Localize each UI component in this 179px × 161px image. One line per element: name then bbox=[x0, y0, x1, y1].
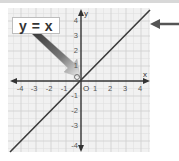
svg-text:-2: -2 bbox=[71, 106, 78, 115]
equation-label: y = x bbox=[12, 17, 60, 34]
svg-text:-2: -2 bbox=[46, 84, 53, 93]
y-axis-label: y bbox=[84, 9, 88, 18]
svg-text:2: 2 bbox=[74, 46, 78, 55]
svg-text:-3: -3 bbox=[71, 121, 78, 130]
svg-text:-4: -4 bbox=[17, 84, 24, 93]
x-axis-label: x bbox=[143, 70, 147, 79]
line-pointer-arrow-icon bbox=[150, 19, 179, 29]
svg-text:-1: -1 bbox=[61, 84, 68, 93]
origin-label: O bbox=[83, 84, 89, 93]
svg-text:-3: -3 bbox=[31, 84, 38, 93]
svg-text:1: 1 bbox=[74, 61, 78, 70]
svg-text:4: 4 bbox=[138, 84, 142, 93]
svg-text:3: 3 bbox=[74, 31, 78, 40]
svg-text:3: 3 bbox=[123, 84, 127, 93]
svg-text:2: 2 bbox=[108, 84, 112, 93]
svg-text:1: 1 bbox=[93, 84, 97, 93]
svg-text:4: 4 bbox=[74, 16, 78, 25]
svg-text:-1: -1 bbox=[71, 91, 78, 100]
svg-text:-4: -4 bbox=[71, 141, 78, 150]
